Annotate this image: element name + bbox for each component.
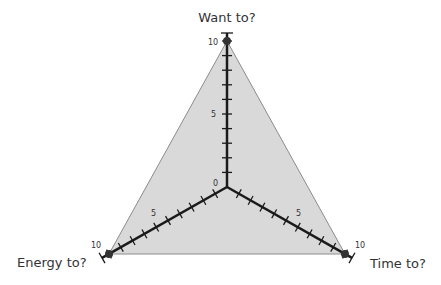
radar-chart: Want to? Energy to? Time to? 10 5 0 5 10… [0,0,441,285]
axis-title-time: Time to? [369,256,426,271]
axis-title-want: Want to? [198,10,255,25]
axis-title-energy: Energy to? [17,255,87,270]
data-point-marker [341,250,349,258]
tick-label-energy-5: 5 [151,209,156,218]
data-point-marker [223,37,231,45]
tick-label-want-5: 5 [211,110,216,119]
tick-label-want-10: 10 [208,38,218,47]
tick-label-time-5: 5 [296,209,301,218]
tick-label-origin-0: 0 [213,179,218,188]
data-point-marker [105,250,113,258]
tick-label-time-10: 10 [355,241,365,250]
tick-label-energy-10: 10 [91,241,101,250]
